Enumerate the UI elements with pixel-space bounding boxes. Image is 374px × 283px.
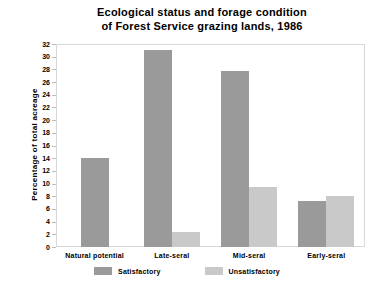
bar-unsatisfactory (172, 232, 200, 247)
y-axis-tick-label: 32 (28, 41, 50, 48)
bar-satisfactory (144, 50, 172, 247)
y-axis-tick-label: 30 (28, 53, 50, 60)
y-axis-tick-label: 12 (28, 167, 50, 174)
bar-satisfactory (221, 71, 249, 247)
legend-swatch-icon (94, 267, 112, 275)
chart-title: Ecological status and forage condition o… (52, 5, 352, 33)
legend-swatch-icon (205, 267, 223, 275)
legend-item-unsatisfactory: Unsatisfactory (205, 267, 280, 275)
y-axis-tick-label: 6 (28, 205, 50, 212)
bar-unsatisfactory (326, 196, 354, 247)
y-axis-tick-label: 0 (28, 244, 50, 251)
y-axis-tick-label: 8 (28, 193, 50, 200)
y-axis-tick-mark (52, 247, 56, 248)
plot-area (56, 44, 365, 247)
y-axis-tick-label: 2 (28, 231, 50, 238)
y-axis-tick-label: 22 (28, 104, 50, 111)
bar-satisfactory (81, 158, 109, 247)
x-axis-category-label: Early-seral (276, 252, 374, 259)
y-axis-tick-label: 24 (28, 91, 50, 98)
bar-unsatisfactory (249, 187, 277, 247)
legend-label: Satisfactory (118, 268, 160, 275)
y-axis-tick-label: 10 (28, 180, 50, 187)
y-axis-tick-label: 4 (28, 218, 50, 225)
bar-chart: Ecological status and forage condition o… (0, 0, 374, 283)
y-axis-tick-label: 28 (28, 66, 50, 73)
y-axis-tick-label: 20 (28, 117, 50, 124)
y-axis-tick-label: 14 (28, 155, 50, 162)
legend-label: Unsatisfactory (229, 268, 280, 275)
legend-item-satisfactory: Satisfactory (94, 267, 160, 275)
y-axis-tick-label: 18 (28, 129, 50, 136)
y-axis-tick-label: 16 (28, 142, 50, 149)
y-axis-tick-label: 26 (28, 79, 50, 86)
chart-legend: SatisfactoryUnsatisfactory (0, 267, 374, 275)
bar-satisfactory (298, 201, 326, 247)
